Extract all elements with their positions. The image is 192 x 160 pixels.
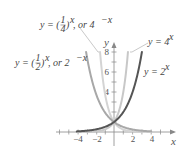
svg-text:x: x xyxy=(168,31,174,42)
svg-text:y = 2: y = 2 xyxy=(143,66,165,77)
x-tick-label: 4 xyxy=(150,134,155,144)
leader-line-4-neg-x xyxy=(80,28,99,52)
svg-text:y = 4: y = 4 xyxy=(147,36,169,47)
x-tick-label: −2 xyxy=(92,134,102,144)
svg-text:, or 4: , or 4 xyxy=(73,19,94,30)
svg-text:, or 2: , or 2 xyxy=(48,57,69,68)
y-tick-label: 6 xyxy=(105,67,110,77)
svg-text:2: 2 xyxy=(36,61,41,72)
exponential-chart: −4 −2 2 4 8 6 4 x y y = ( 1 4 ) x , or 4… xyxy=(0,0,192,160)
label-4-x: y = 4 x xyxy=(147,31,174,47)
curve-2-neg-x xyxy=(86,52,151,131)
curve-4-x xyxy=(77,52,128,132)
y-axis-label: y xyxy=(103,36,109,48)
y-tick-label: 8 xyxy=(105,47,110,57)
x-axis-arrow-icon xyxy=(170,130,176,135)
svg-text:x: x xyxy=(164,61,170,72)
label-2-x: y = 2 x xyxy=(143,61,170,77)
label-4-neg-x: y = ( 1 4 ) x , or 4 −x xyxy=(39,14,113,34)
svg-text:4: 4 xyxy=(61,23,66,34)
x-tick-label: 2 xyxy=(131,134,136,144)
y-axis-arrow-icon xyxy=(112,42,117,48)
svg-text:−x: −x xyxy=(76,52,88,63)
label-2-neg-x: y = ( 1 2 ) x , or 2 −x xyxy=(14,52,88,72)
svg-text:y = (: y = ( xyxy=(39,19,60,31)
svg-text:y = (: y = ( xyxy=(14,57,35,69)
x-axis-label: x xyxy=(170,135,176,147)
leader-line-4-x xyxy=(130,43,148,52)
x-tick-label: −4 xyxy=(73,134,83,144)
svg-text:−x: −x xyxy=(101,14,113,25)
curve-2-x xyxy=(77,52,142,131)
